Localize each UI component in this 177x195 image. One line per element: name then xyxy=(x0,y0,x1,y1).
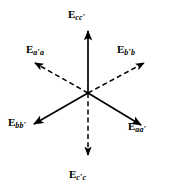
vector-label-aa-prime-subscript: aa′ xyxy=(135,125,146,134)
vector-label-cc-prime: Ecc′ xyxy=(68,9,85,22)
vector-label-c-prime-c-subscript: c′c xyxy=(76,173,86,182)
vector-line-bb-prime xyxy=(34,93,88,124)
vector-label-a-prime-a-subscript: a′a xyxy=(33,48,44,57)
vector-label-b-prime-b-subscript: b′b xyxy=(124,48,135,57)
vector-label-cc-prime-subscript: cc′ xyxy=(75,13,85,22)
vector-line-a-prime-a xyxy=(35,63,88,93)
vector-label-c-prime-c: Ec′c xyxy=(69,169,86,182)
vector-label-b-prime-b: Eb′b xyxy=(117,44,135,57)
phasor-diagram: Ecc′ Ea′a Eb′b Ebb′ Eaa′ Ec′c xyxy=(0,0,177,195)
vector-label-a-prime-a: Ea′a xyxy=(26,44,44,57)
vector-label-bb-prime: Ebb′ xyxy=(8,117,26,130)
vector-canvas xyxy=(0,0,177,195)
vector-label-bb-prime-subscript: bb′ xyxy=(15,121,26,130)
vector-label-aa-prime: Eaa′ xyxy=(128,121,146,134)
vector-line-b-prime-b xyxy=(88,63,144,93)
